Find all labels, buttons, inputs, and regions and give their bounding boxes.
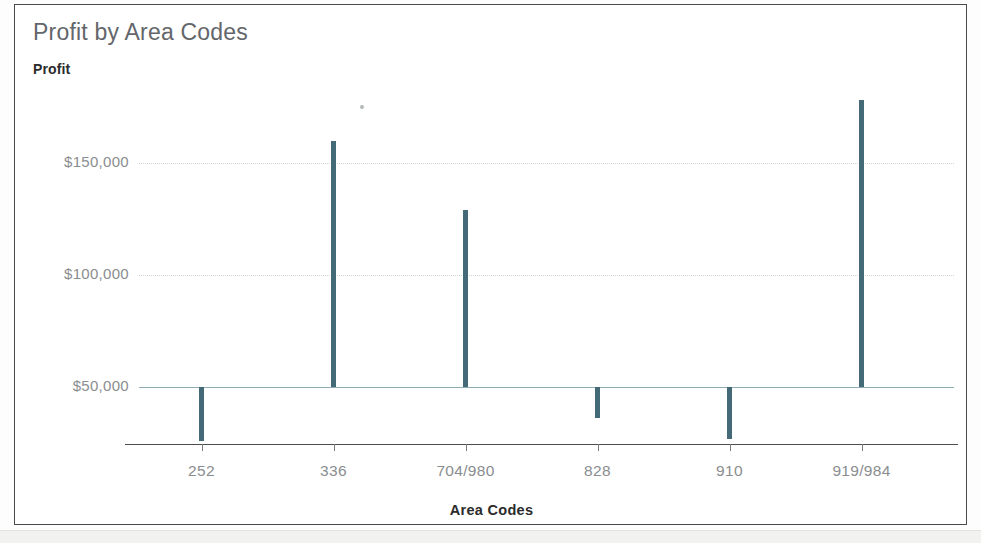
category-axis-line — [125, 444, 958, 445]
x-axis-tick — [598, 444, 599, 451]
bar[interactable] — [463, 210, 468, 387]
y-gridline — [139, 163, 954, 164]
bar[interactable] — [199, 387, 204, 441]
plot-area: $150,000$100,000$50,000252336704/9808289… — [15, 5, 968, 475]
scan-artifact-speck — [360, 105, 364, 109]
y-axis-tick-label: $100,000 — [64, 265, 129, 282]
x-axis-tick-label: 336 — [320, 462, 347, 480]
x-axis-tick-label: 828 — [584, 462, 611, 480]
bar[interactable] — [859, 100, 864, 387]
bar[interactable] — [727, 387, 732, 439]
x-axis-tick-label: 252 — [188, 462, 215, 480]
x-axis-tick — [334, 444, 335, 451]
y-axis-tick-label: $50,000 — [73, 377, 129, 394]
page-scan-edge — [0, 530, 981, 543]
x-axis-tick-label: 919/984 — [832, 462, 890, 480]
bar[interactable] — [595, 387, 600, 418]
x-axis-tick — [466, 444, 467, 451]
chart-card: Profit by Area Codes Profit $150,000$100… — [14, 4, 967, 525]
x-axis-tick-label: 910 — [716, 462, 743, 480]
x-axis-tick — [862, 444, 863, 451]
bar[interactable] — [331, 141, 336, 387]
x-axis-tick — [202, 444, 203, 451]
y-gridline — [139, 275, 954, 276]
category-axis-title: Area Codes — [15, 502, 968, 518]
x-axis-tick — [730, 444, 731, 451]
y-axis-tick-label: $150,000 — [64, 153, 129, 170]
value-axis-baseline — [139, 387, 954, 388]
x-axis-tick-label: 704/980 — [436, 462, 494, 480]
